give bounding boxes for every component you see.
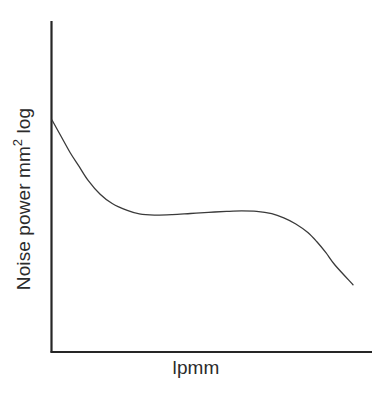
x-axis-label: lpmm: [173, 358, 220, 377]
y-axis-label-prefix: Noise power mm: [13, 146, 34, 290]
x-axis-label-container: lpmm: [51, 358, 341, 378]
data-series-line: [52, 120, 353, 285]
y-axis-label: Noise power mm2 log: [14, 107, 33, 289]
y-axis-label-superscript: 2: [10, 138, 25, 145]
y-axis-label-suffix: log: [13, 107, 34, 138]
chart-canvas: [0, 0, 390, 397]
y-axis-label-container: Noise power mm2 log: [0, 0, 46, 397]
noise-power-chart-figure: Noise power mm2 log lpmm: [0, 0, 390, 397]
